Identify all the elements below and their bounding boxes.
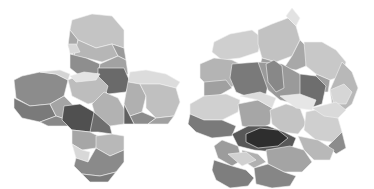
polyhedral-cluster-figure bbox=[0, 0, 374, 189]
polyhedron-facet bbox=[140, 84, 180, 118]
polyhedron-facet bbox=[190, 94, 240, 120]
polyhedron-facet bbox=[212, 30, 262, 60]
right-cluster-panel bbox=[188, 8, 358, 188]
figure-canvas bbox=[0, 0, 374, 189]
polyhedron-facet bbox=[204, 80, 232, 96]
left-cluster-panel bbox=[14, 14, 180, 182]
